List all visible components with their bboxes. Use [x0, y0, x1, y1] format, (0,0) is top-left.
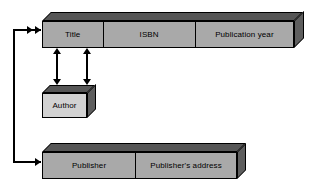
title-to-author-link-right-stem [86, 52, 88, 82]
publisher-table: Publisher Publisher's address [42, 143, 246, 179]
field-publication-year-label: Publication year [215, 30, 274, 39]
field-title[interactable]: Title [43, 22, 103, 47]
author-table: Author [42, 85, 96, 118]
title-to-author-link-left-arrowhead-up [53, 48, 61, 54]
field-publisher-address[interactable]: Publisher's address [135, 153, 236, 178]
title-to-author-link-left-arrowhead-down [53, 79, 61, 85]
field-publisher-label: Publisher [72, 161, 106, 170]
book-to-publisher-link-arrowhead-top-inner [35, 26, 41, 34]
author-table-front-face: Author [42, 93, 87, 118]
field-isbn-label: ISBN [140, 30, 159, 39]
publisher-table-front-face: Publisher Publisher's address [42, 152, 237, 179]
title-to-author-link-right-arrowhead-up [83, 48, 91, 54]
field-author-label: Author [52, 101, 76, 110]
book-to-publisher-link-arrowhead-top-outer [27, 26, 33, 34]
diagram-canvas: Title ISBN Publication year Author Publi… [0, 0, 314, 192]
field-publisher[interactable]: Publisher [43, 153, 135, 178]
field-author[interactable]: Author [43, 94, 86, 117]
book-table-front-face: Title ISBN Publication year [42, 21, 294, 48]
field-isbn[interactable]: ISBN [103, 22, 195, 47]
book-table: Title ISBN Publication year [42, 12, 304, 48]
book-table-top-face [42, 12, 303, 21]
book-to-publisher-link-arrowhead-bottom [35, 158, 41, 166]
field-publication-year[interactable]: Publication year [195, 22, 293, 47]
publisher-table-top-face [42, 143, 246, 152]
book-to-publisher-link-trunk [13, 29, 15, 163]
field-title-label: Title [65, 30, 80, 39]
field-publisher-address-label: Publisher's address [150, 161, 221, 170]
title-to-author-link-left-stem [56, 52, 58, 82]
title-to-author-link-right-arrowhead-down [83, 79, 91, 85]
